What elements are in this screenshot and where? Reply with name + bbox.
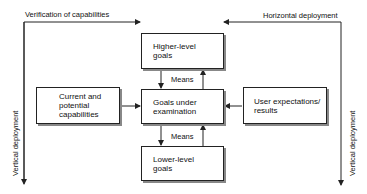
left-vertical-deployment-label: Vertical deployment <box>12 111 20 176</box>
goals-under-examination-text: Goals under examination <box>142 98 197 116</box>
lower-level-goals-box: Lower-level goals <box>141 146 224 181</box>
horizontal-deployment-label: Horizontal deployment <box>263 12 338 20</box>
user-expectations-results-text: User expectations/ results <box>244 97 320 115</box>
goals-under-examination-box: Goals under examination <box>141 89 224 124</box>
means-label-upper: Means <box>171 76 194 84</box>
goal-hierarchy-diagram: Verification of capabilities Horizontal … <box>0 0 367 194</box>
means-label-lower: Means <box>171 133 194 141</box>
user-expectations-results-box: User expectations/ results <box>243 87 327 124</box>
right-vertical-deployment-label: Vertical deployment <box>349 111 357 176</box>
lower-level-goals-text: Lower-level goals <box>142 155 194 173</box>
higher-level-goals-box: Higher-level goals <box>141 33 224 69</box>
higher-level-goals-text: Higher-level goals <box>142 42 196 60</box>
verification-of-capabilities-label: Verification of capabilities <box>25 11 109 19</box>
current-and-potential-capabilities-box: Current and potential capabilities <box>36 87 120 124</box>
current-and-potential-capabilities-text: Current and potential capabilities <box>37 92 101 119</box>
